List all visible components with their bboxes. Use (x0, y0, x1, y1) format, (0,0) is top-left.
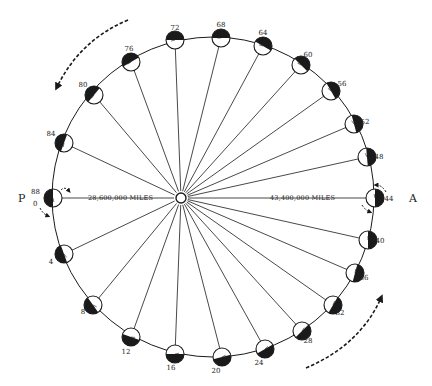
planet-day-40 (359, 231, 377, 249)
spoke-line (184, 46, 263, 192)
day-label-32: 32 (336, 309, 345, 317)
spoke-line (175, 40, 181, 191)
planet-shadow (375, 189, 384, 207)
spoke-line (188, 157, 367, 196)
mercury-orbit-diagram: 4812162024283236404448525660646872768084… (0, 0, 432, 386)
spoke-line (187, 91, 331, 194)
planet-day-72 (166, 31, 184, 49)
spoke-line (183, 38, 221, 191)
aphelion-distance-label: 43,400,000 MILES (270, 194, 335, 202)
day-label-72: 72 (171, 24, 180, 32)
day-label-80: 80 (79, 81, 88, 89)
planet-day-64 (254, 37, 272, 55)
spoke-line (93, 203, 177, 305)
planet-day-8 (84, 296, 102, 314)
day-label-60: 60 (304, 51, 313, 59)
motion-arrow-top-left (57, 20, 128, 87)
day-label-48: 48 (375, 153, 384, 161)
planet-day-48 (358, 148, 376, 166)
spoke-line (131, 62, 179, 191)
spoke-line (186, 65, 301, 193)
planet-day-24 (256, 340, 274, 358)
spoke-line (64, 201, 175, 254)
planet-day-68 (212, 29, 230, 47)
day-label-76: 76 (125, 45, 134, 53)
day-label-8: 8 (81, 308, 85, 316)
day-label-44: 44 (385, 195, 394, 203)
day-label-84: 84 (47, 130, 56, 138)
spoke-line (188, 200, 368, 240)
planet-day-16 (166, 345, 184, 363)
day-label-20: 20 (212, 367, 221, 375)
spoke-line (186, 203, 302, 331)
spoke-line (187, 124, 354, 195)
planet-shadow (44, 189, 53, 207)
planet-shadow (166, 31, 184, 40)
perihelion-distance-label: 28,600,000 MILES (88, 194, 153, 202)
day-label-40: 40 (376, 237, 385, 245)
planet-shadow (166, 354, 184, 363)
rotation-arrow-p-upper (61, 188, 69, 191)
planet-day-76 (122, 53, 140, 71)
planet-day-12 (122, 328, 140, 346)
spoke-line (187, 202, 333, 305)
day-label-52: 52 (361, 118, 370, 126)
day-label-88: 88 (31, 188, 40, 196)
day-label-4: 4 (49, 258, 54, 266)
day-label-68: 68 (217, 21, 226, 29)
day-label-0: 0 (33, 200, 37, 208)
planet-day-44 (366, 189, 384, 207)
day-label-28: 28 (304, 337, 313, 345)
day-label-36: 36 (360, 274, 369, 282)
perihelion-label: P (18, 192, 26, 205)
rotation-arrow-p-lower (40, 208, 48, 216)
planet-day-80 (85, 86, 103, 104)
spoke-line (131, 205, 179, 337)
day-label-24: 24 (255, 359, 264, 367)
spoke-line (187, 201, 355, 273)
day-label-56: 56 (338, 80, 347, 88)
spoke-line (64, 143, 175, 195)
day-label-12: 12 (122, 348, 131, 356)
spoke-line (175, 205, 181, 354)
spoke-line (94, 95, 176, 193)
day-label-64: 64 (259, 29, 268, 37)
day-label-16: 16 (167, 364, 176, 372)
planet-day-0 (44, 189, 62, 207)
planet-day-84 (55, 134, 73, 152)
planet-shadow (212, 29, 230, 38)
spoke-line (183, 205, 222, 357)
planet-day-20 (213, 348, 231, 366)
planet-day-4 (55, 245, 73, 263)
sun-icon (176, 193, 186, 203)
aphelion-label: A (408, 192, 418, 205)
rotation-arrow-a-lower (362, 205, 370, 212)
